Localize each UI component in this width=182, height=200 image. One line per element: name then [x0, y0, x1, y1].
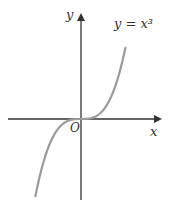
curve-label: y = x³ — [113, 16, 153, 31]
cubic-function-graph: y x O y = x³ — [0, 0, 182, 200]
y-axis-label: y — [65, 7, 74, 22]
x-axis-label: x — [150, 124, 158, 139]
origin-label: O — [70, 121, 80, 135]
